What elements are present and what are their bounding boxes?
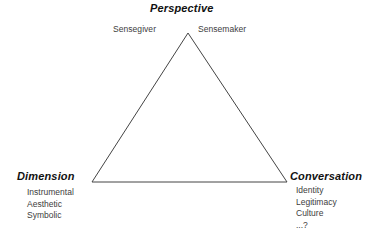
- list-item: ...?: [296, 220, 337, 232]
- dimension-item-list: Instrumental Aesthetic Symbolic: [27, 187, 74, 222]
- list-item: Aesthetic: [27, 199, 74, 211]
- list-item: Legitimacy: [296, 197, 337, 209]
- conversation-item-list: Identity Legitimacy Culture ...?: [296, 185, 337, 231]
- diagram-canvas: Perspective Sensegiver Sensemaker Dimens…: [0, 0, 378, 241]
- vertex-title-perspective: Perspective: [150, 2, 213, 14]
- list-item: Culture: [296, 208, 337, 220]
- label-sensemaker: Sensemaker: [198, 24, 246, 36]
- vertex-title-dimension: Dimension: [17, 170, 75, 182]
- list-item: Identity: [296, 185, 337, 197]
- triangle-outline: [92, 33, 287, 182]
- list-item: Symbolic: [27, 210, 74, 222]
- label-sensegiver: Sensegiver: [113, 24, 156, 36]
- list-item: Instrumental: [27, 187, 74, 199]
- vertex-title-conversation: Conversation: [290, 170, 362, 182]
